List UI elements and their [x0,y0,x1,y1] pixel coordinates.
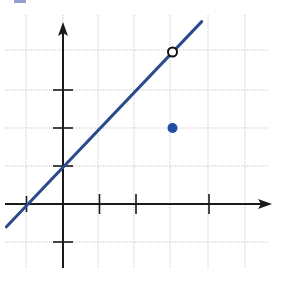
coordinate-plane [0,0,281,288]
grid-lines [5,15,268,268]
filled-dot-point [168,123,178,133]
plot-series [6,22,201,227]
open-circle-point [168,48,177,57]
axes [5,22,272,268]
